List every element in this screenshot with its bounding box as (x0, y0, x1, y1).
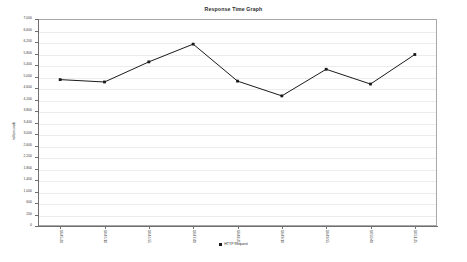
y-axis-tick-label: 5,800 (24, 52, 33, 55)
y-axis-tick-label: 2,600 (24, 144, 33, 147)
x-axis-tick-label: 14:46:55 (147, 230, 150, 243)
data-point-marker (236, 80, 239, 83)
y-axis-tick-label: 4,600 (24, 86, 33, 89)
legend-marker-icon (219, 243, 222, 246)
y-axis-tick-label: 1,000 (24, 190, 33, 193)
data-series-http-request (38, 19, 437, 226)
y-axis-tick-label: 2,200 (24, 155, 33, 158)
x-axis-tick-label: 14:50:40 (369, 230, 372, 243)
data-point-marker (192, 43, 195, 46)
chart-legend: HTTP Request (0, 243, 467, 247)
data-point-marker (103, 81, 106, 84)
x-axis-tick-label: 14:45:20 (58, 230, 61, 243)
response-time-chart: Response Time Graph 7,0006,6006,2005,800… (0, 0, 467, 262)
x-axis-tick (282, 226, 283, 229)
y-axis-tick-label: 200 (26, 213, 32, 216)
y-axis-title: milliseconds (12, 122, 16, 140)
y-axis-tick-label: 0 (30, 224, 32, 227)
x-axis-tick-label: 14:48:25 (236, 230, 239, 243)
data-point-marker (325, 68, 328, 71)
x-axis-tick-label: 14:47:40 (191, 230, 194, 243)
y-axis-tick (35, 226, 38, 227)
y-axis-tick-label: 1,800 (24, 167, 33, 170)
series-line (60, 44, 415, 96)
y-axis-tick-label: 3,000 (24, 132, 33, 135)
y-axis-tick-label: 600 (26, 201, 32, 204)
x-axis-tick (193, 226, 194, 229)
chart-title: Response Time Graph (0, 6, 467, 12)
data-point-marker (59, 78, 62, 81)
x-axis-tick-label: 14:49:10 (280, 230, 283, 243)
y-axis-tick-label: 5,000 (24, 75, 33, 78)
x-axis-tick-label: 14:46:10 (103, 230, 106, 243)
x-axis-tick (371, 226, 372, 229)
y-axis-tick-label: 6,600 (24, 29, 33, 32)
y-axis-tick-label: 7,000 (24, 17, 33, 20)
legend-label: HTTP Request (224, 243, 248, 247)
x-axis-tick (60, 226, 61, 229)
x-axis-tick (105, 226, 106, 229)
y-axis-tick-label: 3,400 (24, 121, 33, 124)
y-axis-tick-label: 5,400 (24, 63, 33, 66)
data-point-marker (147, 60, 150, 63)
y-axis-tick-label: 6,200 (24, 40, 33, 43)
y-axis-tick-labels: 7,0006,6006,2005,8005,4005,0004,6004,200… (0, 0, 34, 262)
data-point-marker (413, 53, 416, 56)
x-axis-tick (326, 226, 327, 229)
x-axis-tick (238, 226, 239, 229)
data-point-marker (369, 83, 372, 86)
x-axis-tick-label: 14:51:25 (413, 230, 416, 243)
x-axis-tick (415, 226, 416, 229)
y-axis-tick-label: 3,800 (24, 109, 33, 112)
y-axis-tick-label: 1,400 (24, 178, 33, 181)
y-axis-tick-label: 4,200 (24, 98, 33, 101)
data-point-marker (280, 94, 283, 97)
x-axis-tick-label: 14:49:55 (324, 230, 327, 243)
x-axis-tick (149, 226, 150, 229)
